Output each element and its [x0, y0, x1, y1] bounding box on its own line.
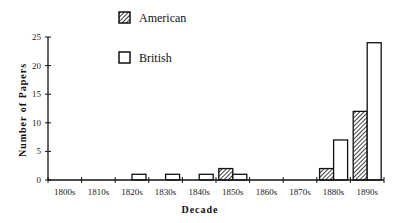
bar-british-1820s — [132, 174, 146, 180]
bar-american-1850s — [219, 169, 233, 180]
bar-british-1880s — [334, 140, 348, 180]
bar-british-1840s — [199, 174, 213, 180]
x-tick-label: 1880s — [323, 187, 345, 197]
y-tick-label: 0 — [37, 175, 42, 185]
y-tick-label: 15 — [32, 89, 42, 99]
y-tick-label: 25 — [32, 32, 42, 42]
bar-chart: AmericanBritish 05101520251800s1810s1820… — [0, 0, 404, 223]
x-tick-label: 1850s — [222, 187, 244, 197]
x-tick-label: 1890s — [356, 187, 378, 197]
legend: AmericanBritish — [119, 11, 186, 65]
legend-label-american: American — [139, 11, 186, 25]
x-tick-label: 1800s — [54, 187, 76, 197]
x-tick-label: 1820s — [121, 187, 143, 197]
bar-british-1830s — [166, 174, 180, 180]
bar-american-1880s — [320, 169, 334, 180]
y-tick-label: 10 — [32, 118, 42, 128]
bar-american-1890s — [353, 111, 367, 180]
legend-swatch-british — [119, 52, 130, 63]
x-tick-label: 1830s — [155, 187, 177, 197]
x-tick-label: 1860s — [256, 187, 278, 197]
legend-swatch-american — [119, 12, 130, 23]
y-tick-label: 20 — [32, 61, 42, 71]
x-axis-title: Decade — [181, 204, 218, 215]
y-axis-title: Number of Papers — [17, 63, 28, 157]
legend-label-british: British — [139, 51, 172, 65]
x-tick-label: 1870s — [289, 187, 311, 197]
bar-british-1850s — [233, 174, 247, 180]
x-tick-label: 1810s — [88, 187, 110, 197]
x-tick-label: 1840s — [188, 187, 210, 197]
y-tick-label: 5 — [37, 146, 42, 156]
bar-british-1890s — [367, 43, 381, 180]
